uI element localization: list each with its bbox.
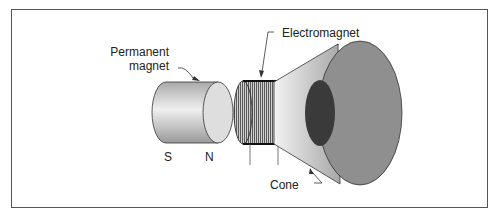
speaker-cone — [274, 41, 445, 185]
label-south-pole: S — [164, 150, 172, 164]
label-permanent-line1: Permanent — [110, 45, 169, 59]
electromagnet-coil — [234, 81, 279, 165]
magnet-north-face — [203, 82, 233, 143]
loudspeaker-diagram: Permanent magnet Electromagnet Cone S N — [0, 0, 500, 217]
label-north-pole: N — [205, 150, 214, 164]
label-electromagnet: Electromagnet — [282, 26, 360, 40]
cone-hole — [305, 80, 335, 146]
electromagnet-leader — [262, 32, 274, 72]
permanent-magnet — [152, 82, 233, 143]
label-permanent-line2: magnet — [129, 59, 170, 73]
label-cone: Cone — [270, 178, 299, 192]
